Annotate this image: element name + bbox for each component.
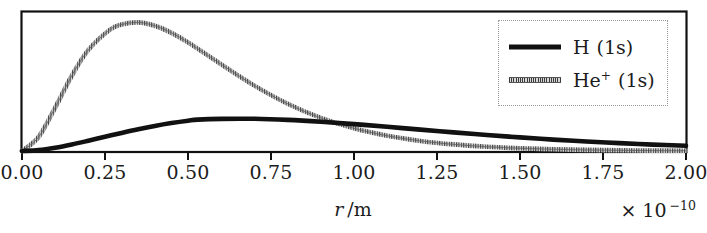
legend-entry-h[interactable]: H(1s): [509, 30, 657, 63]
legend-label-h-main: H: [573, 36, 590, 58]
legend-label-h: H(1s): [573, 36, 633, 58]
legend-swatch-he-icon: [509, 73, 561, 87]
x-axis-symbol: r: [334, 198, 347, 220]
legend-entry-he[interactable]: He+(1s): [509, 63, 657, 96]
curve-h-1s: [22, 119, 686, 151]
x-axis-unit: /m: [347, 198, 371, 220]
legend-box[interactable]: H(1s) He+(1s): [498, 20, 668, 106]
x-tick-label: 1.75: [581, 161, 624, 183]
x-axis-exponent: × 10−10: [620, 199, 696, 221]
x-tick-label: 1.00: [332, 161, 375, 183]
x-axis-label: r/m: [334, 198, 372, 220]
legend-label-he-main: He: [573, 69, 601, 91]
x-tick-label: 2.00: [664, 161, 707, 183]
legend-label-he-state: (1s): [611, 69, 655, 91]
x-tick-label: 0.00: [0, 161, 43, 183]
x-tick-label: 0.25: [83, 161, 126, 183]
x-tick-label: 0.75: [249, 161, 292, 183]
figure-container: 0.000.250.500.751.001.251.501.752.00 r/m…: [0, 0, 707, 233]
x-tick-label: 1.50: [498, 161, 541, 183]
legend-label-he: He+(1s): [573, 69, 655, 91]
x-tick-label: 1.25: [415, 161, 458, 183]
exponent-mantissa: × 10: [620, 199, 669, 221]
legend-label-he-charge: +: [601, 68, 611, 82]
exponent-power: −10: [670, 198, 696, 213]
x-tick-label: 0.50: [166, 161, 209, 183]
legend-swatch-h-icon: [509, 40, 561, 54]
legend-label-h-state: (1s): [590, 36, 634, 58]
